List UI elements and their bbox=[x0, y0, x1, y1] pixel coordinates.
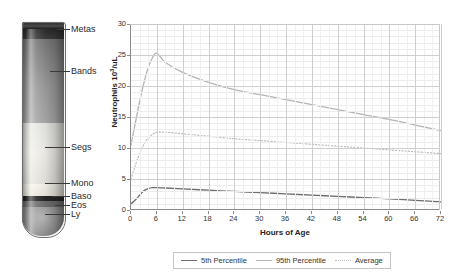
leader-line-eos bbox=[55, 205, 70, 206]
chart-panel: Neutrophils 103/uL 051015202530 06121824… bbox=[118, 0, 472, 280]
leader-line-bands bbox=[50, 71, 70, 72]
leader-line-metas bbox=[57, 29, 70, 30]
leader-line-baso bbox=[52, 196, 70, 197]
x-tick-mark-24 bbox=[233, 211, 234, 214]
tube-layer-bands bbox=[22, 39, 64, 123]
x-tick-label-48: 48 bbox=[327, 214, 347, 223]
y-tick-mark-5 bbox=[127, 179, 130, 180]
x-tick-mark-42 bbox=[311, 211, 312, 214]
y-tick-label-15: 15 bbox=[110, 112, 126, 121]
tube-label-bands: Bands bbox=[71, 66, 97, 76]
gridline-major-v bbox=[338, 24, 339, 209]
gridline-major-v bbox=[209, 24, 210, 209]
x-tick-mark-48 bbox=[337, 211, 338, 214]
x-tick-label-0: 0 bbox=[120, 214, 140, 223]
leader-line-ly bbox=[45, 214, 70, 215]
x-tick-mark-72 bbox=[440, 211, 441, 214]
x-tick-mark-60 bbox=[388, 211, 389, 214]
y-tick-label-20: 20 bbox=[110, 81, 126, 90]
legend-item-95th-percentile[interactable]: 95th Percentile bbox=[256, 256, 326, 265]
legend-swatch-average bbox=[335, 260, 351, 261]
tube-layer-mono bbox=[22, 184, 64, 196]
x-tick-label-72: 72 bbox=[430, 214, 450, 223]
x-tick-label-36: 36 bbox=[275, 214, 295, 223]
legend-swatch-95th-percentile bbox=[256, 260, 272, 261]
y-tick-label-5: 5 bbox=[110, 174, 126, 183]
chart-legend: 5th Percentile 95th Percentile Average bbox=[173, 252, 391, 269]
gridline-major-v bbox=[234, 24, 235, 209]
x-tick-label-54: 54 bbox=[353, 214, 373, 223]
x-tick-label-18: 18 bbox=[198, 214, 218, 223]
y-tick-label-10: 10 bbox=[110, 143, 126, 152]
gridline-major-v bbox=[286, 24, 287, 209]
tube-label-ly: Ly bbox=[71, 209, 80, 219]
tube-layer-ly bbox=[22, 207, 64, 236]
x-tick-label-60: 60 bbox=[378, 214, 398, 223]
x-tick-label-6: 6 bbox=[146, 214, 166, 223]
x-tick-label-12: 12 bbox=[172, 214, 192, 223]
y-tick-mark-25 bbox=[127, 55, 130, 56]
y-tick-mark-15 bbox=[127, 117, 130, 118]
x-tick-label-24: 24 bbox=[223, 214, 243, 223]
x-axis-label: Hours of Age bbox=[130, 228, 440, 237]
y-tick-label-0: 0 bbox=[110, 205, 126, 214]
figure-root: Metas Bands Segs Mono Baso Eos Ly Neutro… bbox=[0, 0, 472, 280]
y-tick-mark-10 bbox=[127, 148, 130, 149]
legend-item-5th-percentile[interactable]: 5th Percentile bbox=[181, 256, 247, 265]
x-tick-mark-18 bbox=[208, 211, 209, 214]
gridline-major-v bbox=[441, 24, 442, 209]
gridline-major-v bbox=[260, 24, 261, 209]
plot-area bbox=[130, 24, 440, 210]
x-tick-mark-0 bbox=[130, 211, 131, 214]
tube-panel: Metas Bands Segs Mono Baso Eos Ly bbox=[0, 0, 118, 280]
legend-swatch-5th-percentile bbox=[181, 260, 197, 261]
leader-line-segs bbox=[45, 147, 70, 148]
y-tick-label-30: 30 bbox=[110, 19, 126, 28]
x-tick-label-66: 66 bbox=[404, 214, 424, 223]
gridline-major-v bbox=[157, 24, 158, 209]
legend-label-95th-percentile: 95th Percentile bbox=[276, 256, 326, 265]
leader-line-mono bbox=[45, 183, 70, 184]
tube-layer-segs bbox=[22, 123, 64, 184]
legend-item-average[interactable]: Average bbox=[335, 256, 383, 265]
gridline-major-v bbox=[364, 24, 365, 209]
legend-label-average: Average bbox=[355, 256, 383, 265]
x-tick-mark-12 bbox=[182, 211, 183, 214]
x-tick-mark-30 bbox=[259, 211, 260, 214]
tube-label-segs: Segs bbox=[71, 142, 92, 152]
x-tick-label-42: 42 bbox=[301, 214, 321, 223]
x-tick-mark-36 bbox=[285, 211, 286, 214]
gridline-major-v bbox=[389, 24, 390, 209]
x-tick-label-30: 30 bbox=[249, 214, 269, 223]
tube-layer-metas bbox=[22, 22, 64, 39]
gridline-major-v bbox=[312, 24, 313, 209]
gridline-major-v bbox=[415, 24, 416, 209]
tube-label-mono: Mono bbox=[71, 178, 94, 188]
gridline-major-v bbox=[183, 24, 184, 209]
y-tick-mark-30 bbox=[127, 24, 130, 25]
tube-label-metas: Metas bbox=[71, 24, 96, 34]
x-tick-mark-54 bbox=[363, 211, 364, 214]
y-tick-label-25: 25 bbox=[110, 50, 126, 59]
x-tick-mark-6 bbox=[156, 211, 157, 214]
x-tick-mark-66 bbox=[414, 211, 415, 214]
legend-label-5th-percentile: 5th Percentile bbox=[201, 256, 247, 265]
blood-tube bbox=[22, 22, 64, 236]
y-tick-mark-20 bbox=[127, 86, 130, 87]
